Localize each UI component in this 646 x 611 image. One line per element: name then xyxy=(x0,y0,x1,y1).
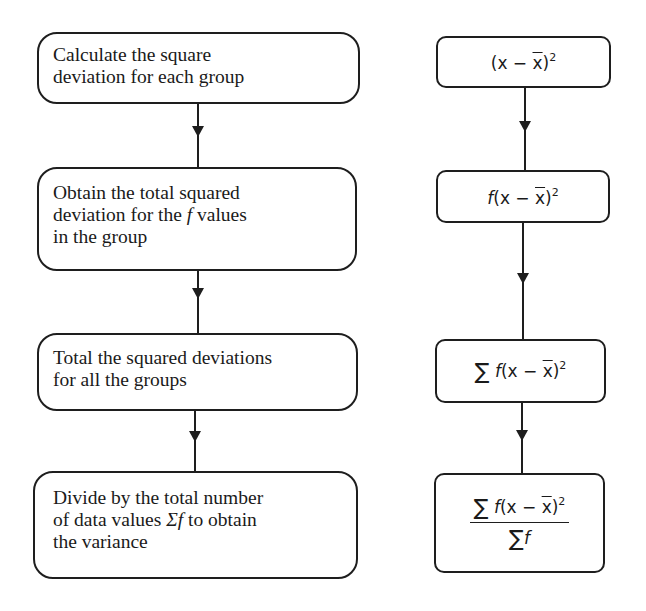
formula-box-squared-deviation: (x − x)2 xyxy=(436,36,611,88)
arrow-down-icon xyxy=(192,288,204,299)
sigma-symbol: ∑ xyxy=(475,359,490,384)
sigma-f-symbol: Σf xyxy=(166,509,183,530)
step-text-fragment: to obtain xyxy=(183,509,257,530)
x-bar-symbol: x xyxy=(533,53,543,73)
formula-part: ) xyxy=(545,188,552,208)
x-bar-symbol: x xyxy=(535,188,545,208)
step-text-line: the variance xyxy=(53,531,342,553)
sigma-symbol: ∑ xyxy=(509,526,524,551)
connector-left-2-3 xyxy=(197,270,199,333)
exponent: 2 xyxy=(549,51,556,64)
formula-part: (x − xyxy=(493,188,535,208)
step-text-fragment: of data values xyxy=(53,509,166,530)
variance-fraction: ∑ f(x − x)2 ∑f xyxy=(470,495,570,551)
step-text-line: in the group xyxy=(53,226,341,248)
f-symbol: f xyxy=(524,528,530,548)
formula-box-sum-squared-deviation: ∑ f(x − x)2 xyxy=(435,339,606,403)
step-text-line: Obtain the total squared xyxy=(53,182,341,204)
x-bar-symbol: x xyxy=(543,361,553,381)
arrow-down-icon xyxy=(519,121,531,132)
step-text-line: deviation for each group xyxy=(53,66,344,88)
step-text-fragment: values xyxy=(192,204,247,225)
fraction-numerator: ∑ f(x − x)2 xyxy=(470,495,570,523)
exponent: 2 xyxy=(559,359,566,372)
step-box-total-all-groups: Total the squared deviations for all the… xyxy=(37,333,358,411)
step-box-divide-variance: Divide by the total number of data value… xyxy=(33,471,358,579)
arrow-down-icon xyxy=(192,126,204,137)
formula: (x − x)2 xyxy=(491,51,556,73)
step-text-line: of data values Σf to obtain xyxy=(53,509,342,531)
step-text-line: deviation for the f values xyxy=(53,204,341,226)
formula-part: (x − xyxy=(501,361,543,381)
formula: f(x − x)2 xyxy=(487,186,558,208)
fraction-denominator: ∑f xyxy=(509,523,530,551)
formula-part: (x − xyxy=(491,53,533,73)
exponent: 2 xyxy=(552,186,559,199)
sigma-symbol: ∑ xyxy=(474,495,489,520)
arrow-down-icon xyxy=(516,430,528,441)
step-text-line: Total the squared deviations xyxy=(53,347,342,369)
formula-box-variance: ∑ f(x − x)2 ∑f xyxy=(434,473,605,573)
formula-box-weighted-squared-deviation: f(x − x)2 xyxy=(436,170,610,223)
exponent: 2 xyxy=(558,495,565,508)
formula: ∑ f(x − x)2 xyxy=(475,359,567,384)
arrow-down-icon xyxy=(189,431,201,442)
formula-part: (x − xyxy=(500,497,542,517)
x-bar-symbol: x xyxy=(542,497,552,517)
step-text-line: for all the groups xyxy=(53,369,342,391)
step-box-calculate-square-deviation: Calculate the square deviation for each … xyxy=(37,32,360,104)
step-box-total-squared-deviation: Obtain the total squared deviation for t… xyxy=(37,167,357,271)
step-text-fragment: deviation for the xyxy=(53,204,187,225)
step-text-line: Calculate the square xyxy=(53,44,344,66)
step-text-line: Divide by the total number xyxy=(53,487,342,509)
arrow-down-icon xyxy=(517,273,529,284)
